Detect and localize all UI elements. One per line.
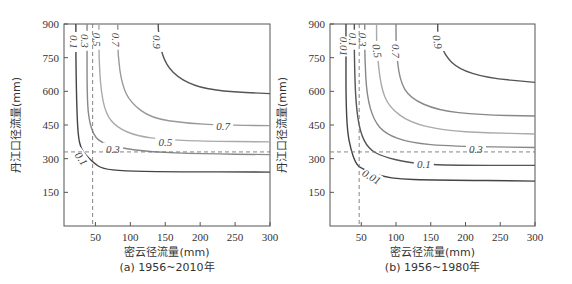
y-tick-label: 150 <box>309 186 326 198</box>
x-tick-label: 200 <box>457 231 474 243</box>
contour-label: 0.01 <box>360 167 383 187</box>
panel-caption: (b) 1956~1980年 <box>385 260 480 274</box>
x-tick-label: 200 <box>192 231 209 243</box>
x-tick-label: 300 <box>262 231 279 243</box>
contour-line-0.7 <box>396 24 535 116</box>
x-tick-label: 300 <box>527 231 544 243</box>
y-tick-label: 600 <box>309 85 326 97</box>
contour-label: 0.3 <box>469 143 483 155</box>
contour-label: 0.1 <box>417 158 431 170</box>
contour-label: 0.5 <box>370 43 384 59</box>
x-tick-label: 50 <box>90 231 102 243</box>
contour-label: 0.1 <box>68 35 80 49</box>
y-axis-title: 丹江口径流量(mm) <box>9 77 23 173</box>
contour-label: 0.3 <box>79 34 91 48</box>
y-axis-title: 丹江口径流量(mm) <box>275 77 289 173</box>
contour-label: 0.7 <box>110 33 122 47</box>
contour-label: 0.3 <box>357 33 369 47</box>
y-tick-label: 900 <box>309 18 326 30</box>
chart-panel-a: 501001502002503001503004506007509000.10.… <box>9 18 279 274</box>
x-tick-label: 250 <box>492 231 509 243</box>
y-tick-label: 300 <box>43 153 60 165</box>
x-tick-label: 100 <box>122 231 139 243</box>
contour-label: 0.9 <box>431 34 445 50</box>
x-tick-label: 50 <box>356 231 368 243</box>
figure: 501001502002503001503004506007509000.10.… <box>0 0 572 284</box>
y-tick-label: 150 <box>43 186 60 198</box>
plot-frame <box>330 24 535 226</box>
contour-line-0.9 <box>438 24 535 82</box>
x-axis-title: 密云径流量(mm) <box>390 245 475 259</box>
y-tick-label: 450 <box>43 119 60 131</box>
x-axis-title: 密云径流量(mm) <box>124 245 209 259</box>
panel-caption: (a) 1956~2010年 <box>119 260 214 274</box>
chart-panel-b: 501001502002503001503004506007509000.010… <box>275 18 544 274</box>
contour-label: 0.3 <box>106 143 120 155</box>
contour-label: 0.7 <box>390 44 402 58</box>
y-tick-label: 600 <box>43 85 60 97</box>
contour-line-0.5 <box>99 24 270 142</box>
y-tick-label: 450 <box>309 119 326 131</box>
y-tick-label: 750 <box>43 52 60 64</box>
y-tick-label: 750 <box>309 52 326 64</box>
x-tick-label: 100 <box>388 231 405 243</box>
contour-label: 0.9 <box>151 35 163 49</box>
x-tick-label: 150 <box>157 231 174 243</box>
x-tick-label: 250 <box>227 231 244 243</box>
x-tick-label: 150 <box>423 231 440 243</box>
contour-line-0.7 <box>118 24 270 126</box>
contour-label: 0.5 <box>158 136 172 148</box>
contour-label: 0.7 <box>216 120 230 132</box>
y-tick-label: 300 <box>309 153 326 165</box>
contour-line-0.9 <box>158 24 270 94</box>
y-tick-label: 900 <box>43 18 60 30</box>
